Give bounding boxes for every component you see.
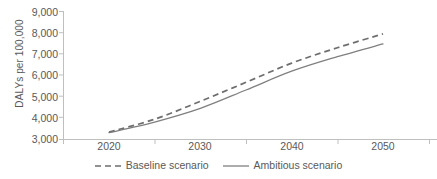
legend-item-baseline-scenario: Baseline scenario	[95, 160, 209, 171]
legend-item-ambitious-scenario: Ambitious scenario	[223, 160, 343, 171]
series-line-ambitious-scenario	[109, 44, 383, 133]
plot-area	[0, 0, 437, 179]
legend-label: Baseline scenario	[126, 160, 209, 171]
dashed-line-icon	[95, 162, 121, 170]
chart-container: DALYs per 100,000 9,000 8,000 7,000 6,00…	[0, 0, 437, 179]
legend-label: Ambitious scenario	[254, 160, 343, 171]
solid-line-icon	[223, 162, 249, 170]
legend: Baseline scenario Ambitious scenario	[0, 160, 437, 171]
series-line-baseline-scenario	[109, 34, 383, 132]
x-axis-ticks	[64, 140, 430, 145]
y-axis-ticks	[59, 12, 64, 140]
